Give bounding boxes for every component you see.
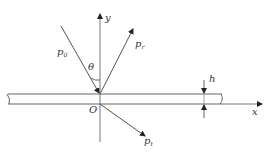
plate bbox=[7, 94, 222, 104]
incident-ray-label: p0 bbox=[57, 47, 67, 58]
theta-arc bbox=[91, 78, 100, 80]
diagram-canvas bbox=[0, 0, 268, 158]
reflected-label-sub: r bbox=[141, 43, 144, 50]
transmitted-label-sub: t bbox=[150, 140, 152, 147]
theta-label: θ bbox=[88, 62, 94, 72]
plate-wave-diagram: y x O p0 pr pt θ h bbox=[0, 0, 268, 158]
x-axis-label: x bbox=[252, 107, 258, 117]
transmitted-ray bbox=[100, 104, 145, 136]
reflected-ray-label: pr bbox=[135, 39, 144, 50]
thickness-label: h bbox=[209, 74, 215, 84]
plate-left-break bbox=[7, 94, 10, 104]
transmitted-ray-label: pt bbox=[144, 136, 153, 147]
incident-label-sub: 0 bbox=[63, 51, 67, 58]
incident-ray bbox=[61, 26, 99, 93]
reflected-ray bbox=[100, 29, 133, 94]
origin-label: O bbox=[89, 105, 97, 115]
y-axis-label: y bbox=[105, 13, 111, 23]
plate-right-break bbox=[220, 94, 222, 104]
